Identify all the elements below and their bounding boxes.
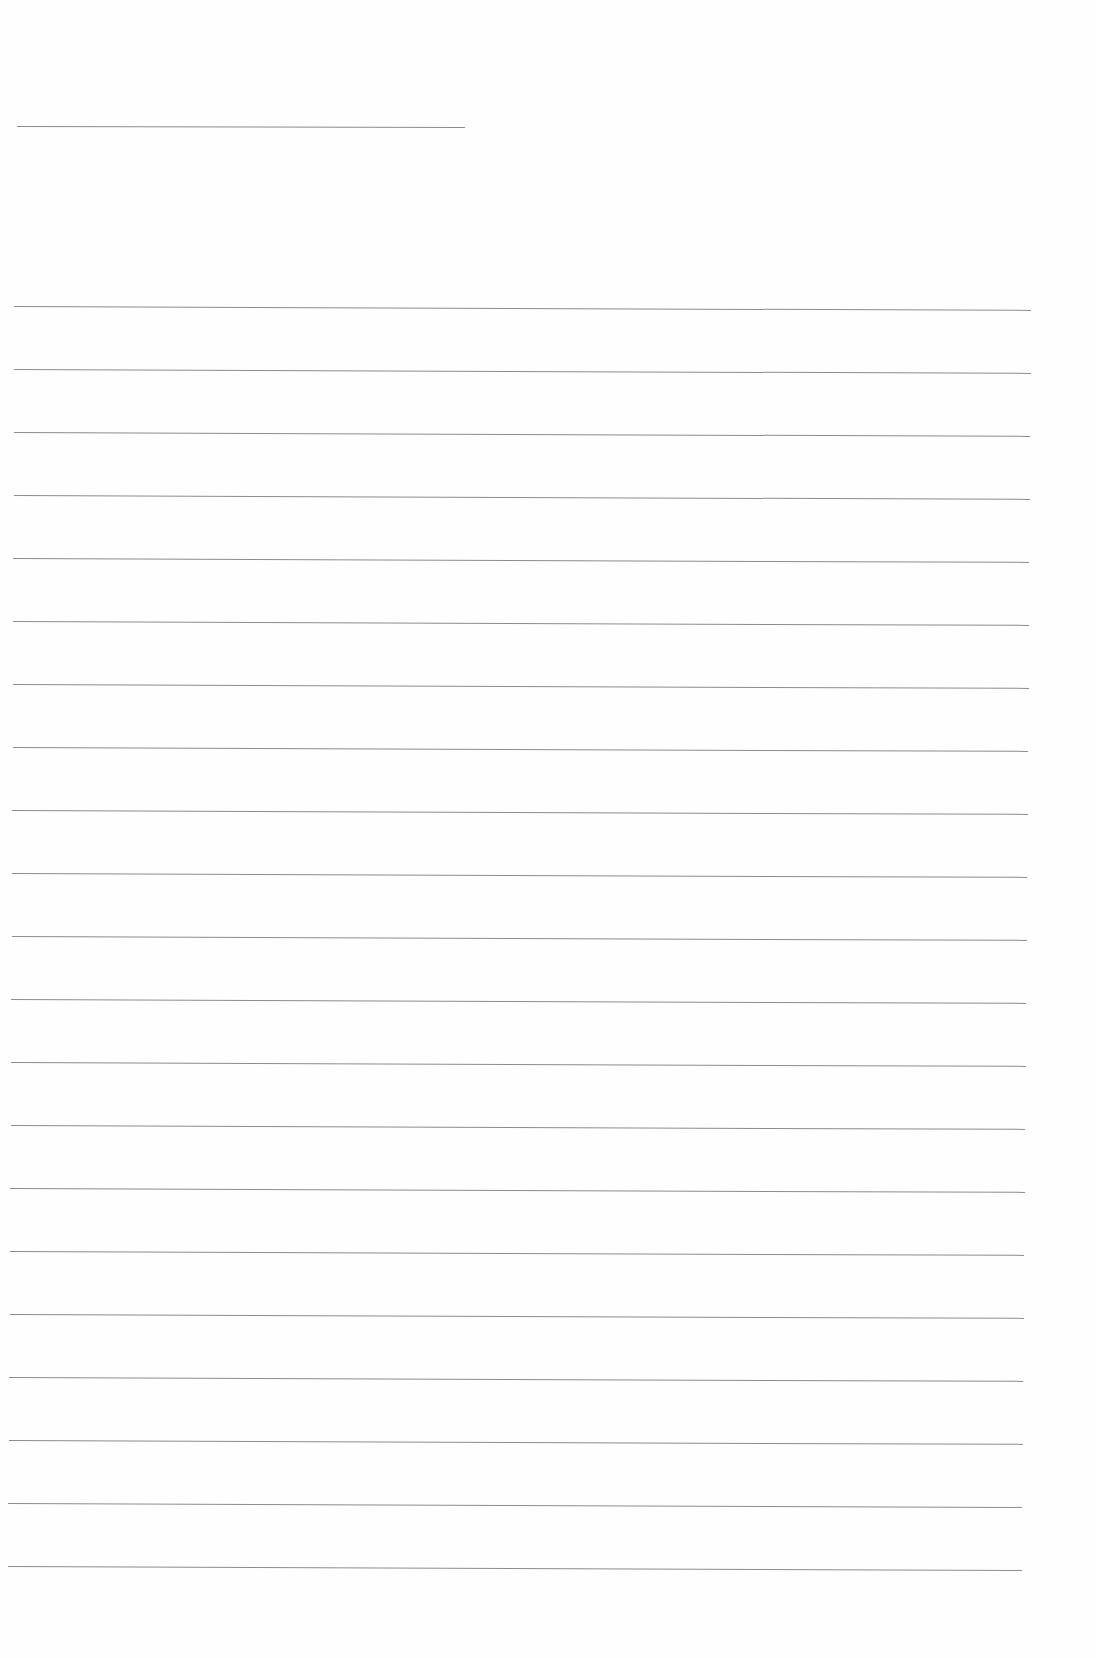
ruled-line — [12, 873, 1027, 878]
ruled-line — [8, 1503, 1022, 1508]
ruled-line — [13, 684, 1029, 689]
ruled-line — [11, 999, 1026, 1004]
ruled-line — [14, 369, 1031, 374]
ruled-line — [13, 558, 1029, 563]
ruled-line — [13, 747, 1028, 752]
ruled-line — [11, 1062, 1026, 1067]
ruled-line — [10, 1188, 1025, 1193]
ruled-line — [14, 495, 1030, 500]
ruled-line — [12, 936, 1027, 941]
lined-paper-page — [0, 0, 1096, 1658]
ruled-line — [11, 1125, 1025, 1130]
ruled-line — [12, 810, 1028, 815]
ruled-line — [8, 1566, 1022, 1571]
ruled-line — [13, 621, 1029, 626]
ruled-line — [10, 1251, 1024, 1256]
ruled-line — [9, 1377, 1023, 1382]
ruled-line — [14, 306, 1031, 311]
ruled-line — [10, 1314, 1024, 1319]
ruled-line — [14, 432, 1030, 437]
header-short-rule — [17, 126, 465, 128]
ruled-line — [9, 1440, 1023, 1445]
